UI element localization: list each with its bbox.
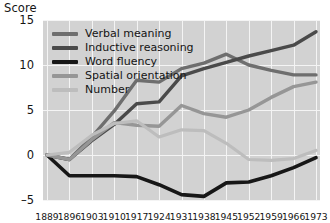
legend-item: Number (52, 83, 194, 96)
x-axis-tick-label: 1931 (170, 211, 193, 222)
legend-item: Verbal meaning (52, 27, 194, 40)
legend-label: Word fluency (85, 55, 157, 68)
y-axis-tick-value: 5 (27, 103, 34, 117)
legend-item: Inductive reasoning (52, 41, 194, 54)
legend-label: Verbal meaning (85, 27, 171, 40)
x-axis-tick-label: 1938 (192, 211, 215, 222)
legend-item: Word fluency (52, 55, 194, 68)
cohort-difference-line-chart: Score 151050–5 1889189619031910191719241… (0, 0, 330, 223)
x-axis-tick-label: 1889 (35, 211, 58, 222)
x-axis-tick-label: 1903 (80, 211, 103, 222)
x-axis-tick-label: 1917 (125, 211, 148, 222)
legend-color-swatch (52, 32, 78, 36)
x-axis-tick-label: 1945 (215, 211, 238, 222)
legend-color-swatch (52, 60, 78, 64)
legend-label: Spatial orientation (85, 69, 187, 82)
legend-color-swatch (52, 88, 78, 92)
legend-label: Number (85, 83, 129, 96)
y-axis-tick-value: –5 (21, 193, 34, 207)
x-axis-ticks: 1889189619031910191719241931193819451952… (43, 201, 320, 223)
series-line (47, 121, 316, 161)
legend: Verbal meaningInductive reasoningWord fl… (52, 27, 194, 96)
y-axis-tick-value: 15 (19, 13, 34, 27)
x-axis-tick-label: 1959 (259, 211, 282, 222)
y-axis-tick-value: 10 (19, 58, 34, 72)
x-axis-tick-label: 1973 (304, 211, 327, 222)
x-axis-tick-label: 1896 (58, 211, 81, 222)
x-axis-tick-label: 1966 (282, 211, 305, 222)
legend-color-swatch (52, 74, 78, 78)
y-axis-tick-value: 0 (27, 148, 34, 162)
x-axis-tick-label: 1924 (147, 211, 170, 222)
legend-item: Spatial orientation (52, 69, 194, 82)
x-axis-tick-label: 1910 (103, 211, 126, 222)
legend-color-swatch (52, 46, 78, 50)
x-axis-tick-label: 1952 (237, 211, 260, 222)
legend-label: Inductive reasoning (85, 41, 194, 54)
